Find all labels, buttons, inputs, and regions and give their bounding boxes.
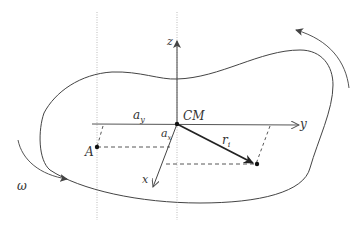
r-i-label: ri (222, 133, 231, 149)
r-i-vector (177, 124, 253, 163)
rigid-body-outline (40, 50, 333, 203)
point-i (255, 162, 259, 166)
a-x-label: ax (161, 127, 172, 142)
dashed-a-slant (97, 126, 103, 147)
rotation-arrow-top-right (296, 30, 349, 88)
cm-label: CM (183, 109, 205, 123)
rigid-body-diagram: z y x CM ay ax A ri ω (0, 0, 362, 227)
point-a (95, 145, 99, 149)
cm-point (175, 122, 179, 126)
rotation-arrow-bottom-left (18, 140, 67, 179)
a-y-label: ay (133, 108, 145, 124)
y-axis-label: y (299, 117, 307, 131)
omega-label: ω (17, 179, 27, 193)
y-axis (92, 124, 299, 125)
z-axis-label: z (166, 35, 173, 48)
point-a-label: A (84, 145, 94, 159)
dashed-i-slant (256, 126, 270, 164)
x-axis-label: x (142, 173, 149, 186)
